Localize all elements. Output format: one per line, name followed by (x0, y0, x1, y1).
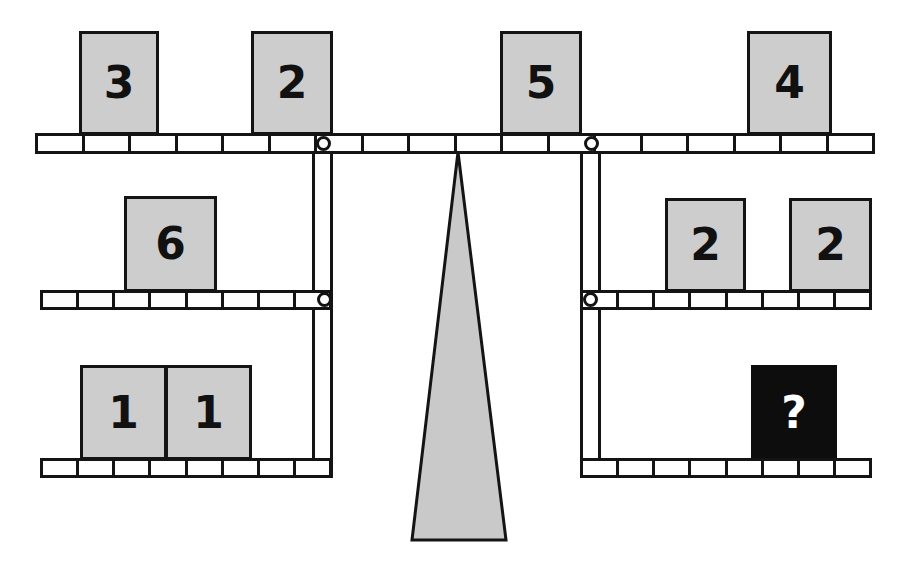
block-top-right-5: 5 (500, 31, 582, 135)
block-label: ? (781, 391, 807, 435)
beam-tick-segment (260, 293, 296, 307)
middle-left-beam-pivot (317, 292, 332, 307)
block-label: 6 (155, 222, 186, 266)
block-top-left-2: 2 (251, 31, 333, 135)
block-label: 5 (526, 61, 557, 105)
beam-tick-segment (43, 461, 79, 475)
bottom-right-beam (580, 458, 872, 478)
balance-scale-diagram: 325462211? (0, 0, 909, 569)
block-label: 1 (193, 391, 224, 435)
block-label: 2 (277, 61, 308, 105)
beam-tick-segment (115, 461, 151, 475)
top-beam (35, 133, 875, 154)
beam-tick-segment (115, 293, 151, 307)
beam-tick-segment (782, 136, 829, 151)
left-hanging-rod (312, 143, 333, 478)
block-middle-left-6: 6 (124, 196, 217, 292)
beam-tick-segment (457, 136, 504, 151)
beam-tick-segment (410, 136, 457, 151)
beam-tick-segment (764, 293, 800, 307)
beam-tick-segment (85, 136, 132, 151)
middle-left-beam (40, 290, 332, 310)
beam-tick-segment (224, 293, 260, 307)
beam-tick-segment (691, 293, 727, 307)
beam-tick-segment (43, 293, 79, 307)
beam-tick-segment (38, 136, 85, 151)
beam-tick-segment (800, 461, 836, 475)
beam-tick-segment (151, 293, 187, 307)
block-top-right-4: 4 (747, 31, 832, 135)
beam-tick-segment (224, 461, 260, 475)
beam-tick-segment (643, 136, 690, 151)
beam-tick-segment (764, 461, 800, 475)
beam-tick-segment (836, 461, 869, 475)
beam-tick-segment (655, 461, 691, 475)
beam-tick-segment (728, 293, 764, 307)
middle-right-beam (580, 290, 872, 310)
right-hanging-rod (580, 143, 601, 478)
beam-tick-segment (689, 136, 736, 151)
middle-right-beam-pivot (583, 292, 598, 307)
block-middle-right-2b: 2 (789, 198, 872, 292)
block-label: 2 (815, 223, 846, 267)
beam-tick-segment (836, 293, 869, 307)
bottom-left-beam (40, 458, 332, 478)
block-label: 3 (104, 61, 135, 105)
beam-tick-segment (583, 461, 619, 475)
beam-tick-segment (728, 461, 764, 475)
beam-tick-segment (829, 136, 873, 151)
beam-tick-segment (188, 293, 224, 307)
block-middle-right-2a: 2 (665, 198, 746, 292)
beam-tick-segment (800, 293, 836, 307)
top-beam-right-pivot (584, 136, 599, 151)
beam-tick-segment (131, 136, 178, 151)
block-bottom-left-1b: 1 (165, 365, 252, 460)
beam-tick-segment (619, 293, 655, 307)
top-beam-left-pivot (316, 136, 331, 151)
block-label: 2 (690, 223, 721, 267)
beam-tick-segment (619, 461, 655, 475)
block-top-left-3: 3 (79, 31, 159, 135)
beam-tick-segment (224, 136, 271, 151)
fulcrum-triangle-shape (412, 152, 506, 540)
beam-tick-segment (271, 136, 318, 151)
beam-tick-segment (596, 136, 643, 151)
beam-tick-segment (296, 461, 329, 475)
beam-tick-segment (503, 136, 550, 151)
beam-tick-segment (188, 461, 224, 475)
block-label: 4 (774, 61, 805, 105)
beam-tick-segment (364, 136, 411, 151)
block-label: 1 (108, 391, 139, 435)
beam-tick-segment (260, 461, 296, 475)
block-bottom-left-1a: 1 (80, 365, 167, 460)
beam-tick-segment (79, 461, 115, 475)
beam-tick-segment (655, 293, 691, 307)
beam-tick-segment (691, 461, 727, 475)
block-bottom-right-unknown: ? (751, 365, 837, 460)
beam-tick-segment (178, 136, 225, 151)
beam-tick-segment (79, 293, 115, 307)
beam-tick-segment (151, 461, 187, 475)
beam-tick-segment (736, 136, 783, 151)
